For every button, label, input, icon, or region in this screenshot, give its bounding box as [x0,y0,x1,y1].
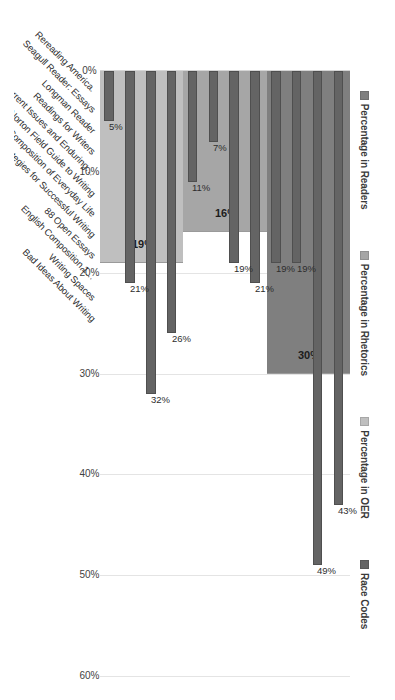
value-axis-tick-label: 0% [82,65,96,76]
legend-item[interactable]: Percentage in Readers [360,91,371,210]
page-canvas: Percentage in ReadersPercentage in Rheto… [0,0,395,700]
value-axis-tick-label: 30% [79,367,99,378]
value-axis-tick-label: 20% [79,266,99,277]
legend-swatch-icon [361,251,370,260]
chart-legend: Percentage in ReadersPercentage in Rheto… [354,16,376,684]
race-codes-bar [313,71,323,565]
category-axis-labels: Rereading America.Seagull Reader: Essays… [14,70,100,676]
value-axis-tick-label: 60% [79,670,99,681]
race-codes-bar [146,71,156,394]
bar-chart: Percentage in ReadersPercentage in Rheto… [14,16,380,684]
plot-area-wrapper: 30%16%19%43%49%19%19%21%19%7%11%26%32%21… [100,70,350,676]
race-codes-bar [104,71,114,121]
legend-swatch-icon [361,560,370,569]
race-codes-bar-value-label: 19% [297,262,316,273]
race-codes-bar-value-label: 19% [234,262,253,273]
category-axis-label: 88 Open Essays [42,205,98,261]
legend-item[interactable]: Percentage in OER [360,417,371,518]
category-axis-label: Current Issues and Enduring… [14,80,98,177]
race-codes-bar [334,71,344,505]
race-codes-bar [188,71,198,182]
category-axis-label: Norton Field Guide to Writing [14,107,98,198]
plot-area: 30%16%19%43%49%19%19%21%19%7%11%26%32%21… [100,70,350,676]
gridline [100,676,350,677]
legend-item-label: Percentage in OER [360,430,371,518]
rotated-chart-host: Percentage in ReadersPercentage in Rheto… [14,16,380,684]
value-axis-tick-label: 50% [79,569,99,580]
category-axis-label: Strategies for Successful Writing [14,139,98,240]
race-codes-bar-value-label: 49% [318,565,337,576]
race-codes-bar [229,71,239,263]
legend-item-label: Race Codes [360,573,371,629]
legend-item-label: Percentage in Readers [360,104,371,210]
category-axis-label: Bad Ideas About Writing [21,246,98,323]
race-codes-bar-value-label: 43% [338,504,357,515]
race-codes-bar [271,71,281,263]
race-codes-bar-value-label: 7% [213,141,227,152]
legend-item-label: Percentage in Rhetorics [360,264,371,376]
race-codes-bar-value-label: 21% [255,282,274,293]
value-axis-tick-label: 40% [79,468,99,479]
category-axis-label: Seagull Reader: Essays [21,38,98,115]
race-codes-bar [250,71,260,283]
category-axis-label: Composition of Everyday Life [14,127,98,219]
race-codes-bar [125,71,135,283]
legend-item[interactable]: Percentage in Rhetorics [360,251,371,376]
race-codes-bar-value-label: 32% [151,393,170,404]
category-axis-label: Writing Spaces [47,251,98,302]
category-axis-label: English Composition 1… [19,203,98,282]
race-codes-bar-value-label: 11% [193,181,211,192]
race-codes-bar-value-label: 21% [130,282,149,293]
value-axis-tick-label: 10% [79,165,99,176]
legend-item[interactable]: Race Codes [360,560,371,629]
race-codes-bar [209,71,219,142]
race-codes-bar-value-label: 26% [172,333,191,344]
legend-swatch-icon [361,417,370,426]
legend-swatch-icon [361,91,370,100]
race-codes-bar [292,71,302,263]
race-codes-bar-value-label: 5% [109,121,123,132]
race-codes-bar-value-label: 19% [276,262,295,273]
category-axis-label: Rereading America. [33,29,98,94]
category-axis-label: Longman Reader [40,78,98,136]
race-codes-bar [167,71,177,333]
category-axis-label: Readings for Writers [31,90,98,157]
gridline [100,575,350,576]
